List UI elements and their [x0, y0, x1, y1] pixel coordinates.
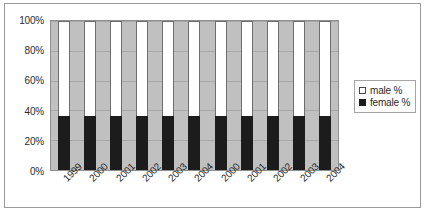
bar-group[interactable]	[215, 21, 227, 170]
bar-group[interactable]	[58, 21, 70, 170]
bar-group[interactable]	[267, 21, 279, 170]
bar-segment-female[interactable]	[162, 116, 174, 170]
bar-segment-female[interactable]	[136, 116, 148, 170]
x-axis-tick-slot: 2001	[241, 172, 253, 212]
bar-segment-female[interactable]	[188, 116, 200, 170]
bar-segment-male[interactable]	[241, 21, 253, 116]
bar-group[interactable]	[241, 21, 253, 170]
bar-segment-female[interactable]	[58, 116, 70, 170]
bar-segment-male[interactable]	[215, 21, 227, 116]
bar-segment-male[interactable]	[319, 21, 331, 116]
chart-outer-frame: 0%20%40%60%80%100% 199920002001200220032…	[4, 3, 421, 208]
legend-swatch-male-icon	[359, 87, 366, 94]
legend-item-label: female %	[370, 97, 410, 108]
x-axis-tick-slot: 2003	[162, 172, 174, 212]
bar-segment-male[interactable]	[136, 21, 148, 116]
y-axis-tick-label: 40%	[25, 105, 44, 116]
y-axis: 0%20%40%60%80%100%	[5, 20, 47, 171]
bar-group[interactable]	[319, 21, 331, 170]
legend-item[interactable]: female %	[359, 97, 410, 108]
y-axis-tick-label: 0%	[30, 166, 44, 177]
x-axis-tick-slot: 2002	[136, 172, 148, 212]
bar-group[interactable]	[162, 21, 174, 170]
y-axis-tick-label: 60%	[25, 75, 44, 86]
y-axis-tick-label: 80%	[25, 45, 44, 56]
legend-item-label: male %	[370, 85, 402, 96]
x-axis-tick-slot: 2000	[215, 172, 227, 212]
y-axis-tick-label: 100%	[19, 15, 44, 26]
bar-group[interactable]	[188, 21, 200, 170]
bar-segment-female[interactable]	[267, 116, 279, 170]
bar-segment-male[interactable]	[58, 21, 70, 116]
chart-legend: male %female %	[354, 80, 416, 113]
bar-segment-female[interactable]	[319, 116, 331, 170]
bar-segment-male[interactable]	[188, 21, 200, 116]
bar-group[interactable]	[136, 21, 148, 170]
x-axis-tick-slot: 2001	[110, 172, 122, 212]
bar-segment-female[interactable]	[110, 116, 122, 170]
legend-swatch-female-icon	[359, 99, 366, 106]
bar-segment-male[interactable]	[110, 21, 122, 116]
x-axis-tick-slot: 2002	[267, 172, 279, 212]
bar-group[interactable]	[293, 21, 305, 170]
bar-group[interactable]	[110, 21, 122, 170]
bar-segment-female[interactable]	[215, 116, 227, 170]
bar-segment-male[interactable]	[84, 21, 96, 116]
bar-group[interactable]	[84, 21, 96, 170]
bar-series-group	[51, 21, 338, 170]
bar-segment-female[interactable]	[293, 116, 305, 170]
bar-segment-male[interactable]	[162, 21, 174, 116]
x-axis-tick-slot: 2004	[320, 172, 332, 212]
bar-segment-male[interactable]	[293, 21, 305, 116]
legend-item[interactable]: male %	[359, 85, 410, 96]
x-axis-tick-slot: 2000	[83, 172, 95, 212]
x-axis-tick-slot: 2003	[294, 172, 306, 212]
x-axis-tick-slot: 1999	[57, 172, 69, 212]
chart-container: 0%20%40%60%80%100% 199920002001200220032…	[0, 0, 425, 214]
x-axis: 1999200020012002200320042000200120022003…	[50, 172, 339, 212]
y-axis-tick-label: 20%	[25, 135, 44, 146]
x-axis-tick-slot: 2004	[188, 172, 200, 212]
plot-area	[50, 20, 339, 171]
bar-segment-male[interactable]	[267, 21, 279, 116]
bar-segment-female[interactable]	[84, 116, 96, 170]
bar-segment-female[interactable]	[241, 116, 253, 170]
